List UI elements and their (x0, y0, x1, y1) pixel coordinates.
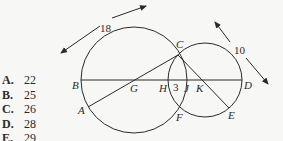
point-a: A (77, 104, 85, 116)
label-3: 3 (173, 81, 179, 93)
dimension-arrow-10 (215, 22, 230, 42)
point-c: C (176, 38, 184, 50)
point-f: F (175, 111, 183, 123)
point-e: E (227, 109, 235, 121)
point-h: H (158, 82, 168, 94)
geometry-diagram: 18 10 3 B G H J K D C A F E (0, 0, 283, 141)
segment-ac (88, 55, 178, 107)
point-j: J (184, 82, 190, 94)
point-g: G (130, 82, 138, 94)
label-10: 10 (234, 44, 246, 56)
point-k: K (195, 82, 204, 94)
label-18: 18 (100, 22, 112, 34)
point-b: B (72, 79, 79, 91)
dimension-arrow-18 (61, 26, 100, 53)
point-d: D (243, 79, 252, 91)
